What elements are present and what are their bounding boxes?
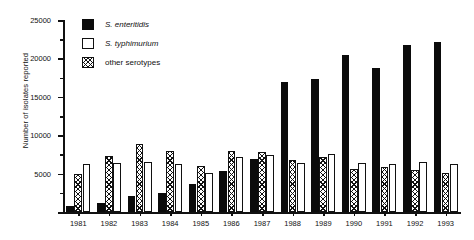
bar-typhimurium <box>450 164 458 212</box>
bar-typhimurium <box>389 164 397 212</box>
x-tick-label: 1989 <box>315 219 332 228</box>
x-tick <box>446 212 448 216</box>
x-tick-label: 1992 <box>407 219 424 228</box>
x-tick-label: 1991 <box>376 219 393 228</box>
bar-other-serotypes <box>74 174 82 212</box>
bar-enteritidis <box>219 171 227 212</box>
x-tick <box>201 212 203 216</box>
bar-group <box>434 20 458 212</box>
x-tick <box>262 212 264 216</box>
x-tick-label: 1984 <box>162 219 179 228</box>
bar-enteritidis <box>434 42 442 212</box>
x-tick <box>293 212 295 216</box>
y-tick-label: 25000 <box>30 16 51 25</box>
bar-typhimurium <box>83 164 91 212</box>
bar-enteritidis <box>158 193 166 212</box>
x-tick <box>354 212 356 216</box>
x-tick <box>384 212 386 216</box>
legend-label: other serotypes <box>105 58 160 67</box>
x-tick <box>415 212 417 216</box>
x-tick-label: 1990 <box>346 219 363 228</box>
y-tick-label: 5000 <box>34 169 51 178</box>
bar-group <box>311 20 335 212</box>
bar-enteritidis <box>66 206 74 212</box>
bar-typhimurium <box>328 154 336 212</box>
bar-typhimurium <box>266 155 274 212</box>
legend-item: other serotypes <box>82 54 232 70</box>
bar-typhimurium <box>419 162 427 212</box>
bar-other-serotypes <box>258 152 266 212</box>
x-tick-label: 1987 <box>254 219 271 228</box>
legend-label: S. typhimurium <box>105 39 158 48</box>
bar-enteritidis <box>372 68 380 212</box>
bar-enteritidis <box>97 203 105 212</box>
x-tick <box>140 212 142 216</box>
legend-item: S. enteritidis <box>82 16 232 32</box>
y-tick-label: 15000 <box>30 92 51 101</box>
bar-other-serotypes <box>319 157 327 212</box>
chart-legend: S. enteritidisS. typhimuriumother seroty… <box>82 16 232 73</box>
legend-swatch-icon <box>82 38 94 49</box>
bar-other-serotypes <box>289 160 297 212</box>
bar-other-serotypes <box>105 156 113 212</box>
x-tick-label: 1988 <box>284 219 301 228</box>
bar-typhimurium <box>236 157 244 212</box>
legend-swatch-icon <box>82 57 94 68</box>
bar-group <box>403 20 427 212</box>
bar-typhimurium <box>205 173 213 212</box>
bar-typhimurium <box>113 163 121 212</box>
x-tick <box>231 212 233 216</box>
x-tick-label: 1982 <box>101 219 118 228</box>
y-tick-major: 0 <box>58 212 63 214</box>
bar-other-serotypes <box>381 167 389 212</box>
x-tick-label: 1993 <box>437 219 454 228</box>
bar-typhimurium <box>358 163 366 212</box>
bar-typhimurium <box>297 163 305 212</box>
bar-other-serotypes <box>166 151 174 212</box>
bar-typhimurium <box>144 162 152 212</box>
x-tick-label: 1983 <box>131 219 148 228</box>
bar-group <box>281 20 305 212</box>
legend-label: S. enteritidis <box>105 20 149 29</box>
bar-other-serotypes <box>350 169 358 212</box>
chart-figure: Number of isolates reported 050001000015… <box>0 0 474 240</box>
bar-group <box>372 20 396 212</box>
x-tick-label: 1981 <box>70 219 87 228</box>
x-tick <box>109 212 111 216</box>
bar-group <box>342 20 366 212</box>
x-tick <box>78 212 80 216</box>
bar-other-serotypes <box>136 144 144 212</box>
bar-enteritidis <box>250 159 258 212</box>
bar-enteritidis <box>403 45 411 212</box>
y-tick-label: 10000 <box>30 131 51 140</box>
x-tick-label: 1986 <box>223 219 240 228</box>
bar-enteritidis <box>342 55 350 212</box>
bar-enteritidis <box>281 82 289 212</box>
bar-other-serotypes <box>411 170 419 212</box>
bar-typhimurium <box>175 164 183 212</box>
bar-other-serotypes <box>228 151 236 212</box>
x-tick <box>170 212 172 216</box>
legend-swatch-icon <box>82 19 94 30</box>
bar-other-serotypes <box>442 173 450 212</box>
x-tick <box>323 212 325 216</box>
bar-other-serotypes <box>197 166 205 212</box>
bar-enteritidis <box>128 196 136 212</box>
bar-enteritidis <box>311 79 319 212</box>
y-tick-label: 20000 <box>30 54 51 63</box>
bar-group <box>250 20 274 212</box>
x-tick-label: 1985 <box>192 219 209 228</box>
bar-enteritidis <box>189 184 197 212</box>
y-axis-title: Number of isolates reported <box>21 16 30 186</box>
legend-item: S. typhimurium <box>82 35 232 51</box>
